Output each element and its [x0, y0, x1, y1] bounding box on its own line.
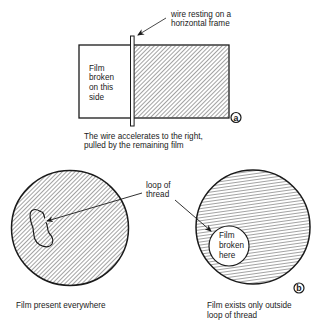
panel-b: Film broken here loop of thread b Film p…	[12, 170, 311, 320]
panel-a: wire resting on a horizontal frame Film …	[79, 10, 241, 150]
broken-here-line-3: here	[219, 251, 236, 260]
left-disc-caption: Film present everywhere	[16, 301, 106, 310]
wire-arrow	[138, 18, 166, 35]
film-outside-loop-disc: Film broken here	[196, 170, 310, 284]
broken-side-line-2: broken	[89, 73, 114, 82]
thread-label-line-2: thread	[146, 190, 170, 199]
wire	[131, 36, 135, 126]
panel-marker-a: a	[231, 113, 241, 123]
wire-label-line-2: horizontal frame	[171, 19, 230, 28]
panel-a-caption-line-2: pulled by the remaining film	[84, 141, 184, 150]
right-disc-caption-line-1: Film exists only outside	[207, 301, 292, 310]
panel-marker-b: b	[294, 283, 304, 293]
broken-here-line-1: Film	[219, 231, 235, 240]
remaining-film	[134, 46, 228, 118]
wire-label: wire resting on a horizontal frame	[170, 10, 233, 28]
broken-here-line-2: broken	[219, 241, 244, 250]
thread-label-line-1: loop of	[146, 181, 171, 190]
broken-side-line-3: on this	[89, 83, 113, 92]
thread-label: loop of thread	[146, 181, 173, 199]
film-everywhere-disc	[12, 171, 129, 286]
right-disc-caption-line-2: loop of thread	[207, 311, 258, 320]
broken-side-label: Film broken on this side	[89, 64, 116, 102]
panel-marker-b-text: b	[296, 283, 302, 293]
broken-side-line-1: Film	[89, 64, 105, 73]
panel-a-caption-line-1: The wire accelerates to the right,	[84, 132, 203, 141]
broken-side-line-4: side	[89, 93, 104, 102]
right-disc-caption: Film exists only outside loop of thread	[207, 301, 294, 320]
panel-marker-a-text: a	[234, 113, 239, 123]
panel-a-caption: The wire accelerates to the right, pulle…	[84, 132, 205, 150]
soap-film-diagram: wire resting on a horizontal frame Film …	[0, 0, 314, 329]
wire-label-line-1: wire resting on a	[170, 10, 232, 19]
left-disc-caption-line-1: Film present everywhere	[16, 301, 106, 310]
